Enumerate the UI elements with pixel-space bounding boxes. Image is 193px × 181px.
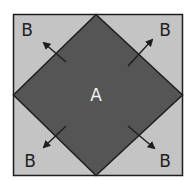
label-b-top-left: B [21,20,33,40]
label-b-bottom-right: B [159,151,171,171]
label-b-top-right: B [159,20,171,40]
label-b-bottom-left: B [24,151,36,171]
square-diamond-diagram: A B B B B [0,0,193,181]
label-a: A [90,85,102,105]
